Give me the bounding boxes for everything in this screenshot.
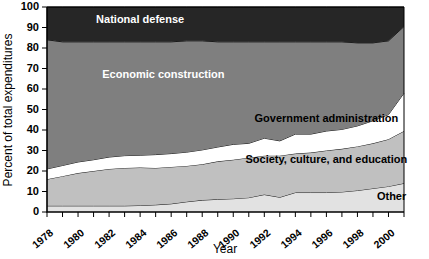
x-tick-label: 1986: [154, 226, 180, 250]
y-tick-label: 20: [27, 164, 39, 176]
series-label-other: Other: [377, 190, 407, 202]
y-tick-label: 60: [27, 82, 39, 94]
y-axis-ticks: 0102030405060708090100: [21, 0, 47, 217]
y-tick-label: 30: [27, 144, 39, 156]
y-axis-title: Percent of total expenditures: [1, 34, 15, 187]
x-tick-label: 1988: [185, 226, 211, 250]
chart-canvas: 0102030405060708090100 19781980198219841…: [0, 0, 429, 259]
series-label-national-defense: National defense: [96, 13, 184, 25]
series-label-society-culture-and-education: Society, culture, and education: [245, 153, 407, 165]
y-tick-label: 70: [27, 62, 39, 74]
x-tick-label: 1998: [340, 226, 366, 250]
y-tick-label: 10: [27, 185, 39, 197]
series-label-government-administration: Government administration: [255, 112, 399, 124]
stacked-area-chart: 0102030405060708090100 19781980198219841…: [0, 0, 429, 259]
y-tick-label: 100: [21, 0, 39, 12]
x-tick-label: 1984: [123, 226, 149, 250]
y-tick-label: 90: [27, 21, 39, 33]
plot-areas: [47, 7, 404, 212]
x-tick-label: 1982: [92, 226, 118, 250]
y-tick-label: 40: [27, 123, 39, 135]
y-tick-label: 0: [33, 205, 39, 217]
x-axis-title: Year: [213, 242, 237, 256]
series-label-economic-construction: Economic construction: [102, 68, 225, 80]
x-tick-label: 1992: [247, 226, 273, 250]
x-tick-label: 1996: [309, 226, 335, 250]
x-tick-label: 1980: [61, 226, 87, 250]
y-tick-label: 50: [27, 103, 39, 115]
x-tick-label: 1978: [30, 226, 56, 250]
x-tick-label: 1994: [278, 226, 304, 250]
x-tick-label: 2000: [371, 226, 397, 250]
y-tick-label: 80: [27, 41, 39, 53]
